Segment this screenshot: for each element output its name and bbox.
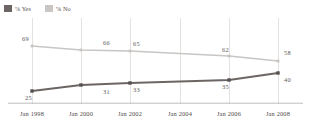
marker-no-2002 xyxy=(129,50,132,53)
value-label-yes-2006: 35 xyxy=(222,83,229,90)
x-tick-2000: Jan 2000 xyxy=(69,110,93,118)
chart-legend: % Yes % No xyxy=(4,3,71,13)
marker-yes-2000 xyxy=(79,83,82,86)
value-label-no-2006: 62 xyxy=(222,46,229,53)
x-axis: Jan 1998 Jan 2000 Jan 2002 Jan 2004 Jan … xyxy=(0,104,311,126)
legend-swatch-no xyxy=(45,5,53,12)
value-label-yes-2000: 31 xyxy=(103,88,110,95)
marker-no-1998 xyxy=(31,45,34,48)
marker-yes-1998 xyxy=(30,89,33,92)
legend-swatch-yes xyxy=(4,5,12,12)
marker-no-2006 xyxy=(228,55,231,58)
value-label-no-2008: 58 xyxy=(284,49,291,56)
series-yes xyxy=(30,71,279,92)
series-no xyxy=(31,45,280,63)
line-chart: % Yes % No xyxy=(0,0,311,126)
x-tick-2002: Jan 2002 xyxy=(118,110,142,118)
series-no-line xyxy=(32,46,278,61)
x-tick-2006: Jan 2006 xyxy=(217,110,241,118)
marker-yes-2002 xyxy=(128,81,131,84)
value-label-yes-2002: 33 xyxy=(133,86,140,93)
value-label-no-2000: 66 xyxy=(103,39,110,46)
marker-yes-2006 xyxy=(227,78,230,81)
value-label-no-2002: 65 xyxy=(133,40,140,47)
legend-item-yes: % Yes xyxy=(4,3,31,13)
series-yes-line xyxy=(32,73,278,91)
series-no-markers xyxy=(31,45,280,63)
legend-label-yes: % Yes xyxy=(15,5,31,12)
value-label-no-1998: 69 xyxy=(22,35,29,42)
legend-label-no: % No xyxy=(56,5,71,12)
plot-area: 69 66 65 62 58 25 31 33 35 40 xyxy=(0,18,311,104)
value-label-yes-2008: 40 xyxy=(284,76,291,83)
x-tick-2008: Jan 2008 xyxy=(266,110,290,118)
marker-no-2000 xyxy=(80,49,83,52)
marker-no-2008 xyxy=(277,60,280,63)
x-tick-2004: Jan 2004 xyxy=(168,110,192,118)
gridlines xyxy=(33,18,279,104)
value-label-yes-1998: 25 xyxy=(25,94,32,101)
legend-item-no: % No xyxy=(45,3,71,13)
x-tick-1998: Jan 1998 xyxy=(20,110,44,118)
marker-yes-2008 xyxy=(276,71,279,74)
